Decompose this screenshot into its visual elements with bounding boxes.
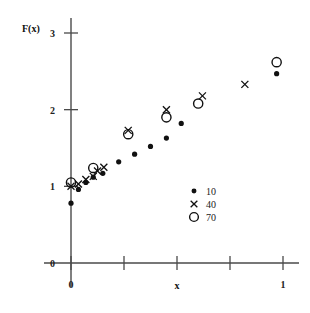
- marker-filled-circle: [148, 144, 153, 149]
- x-tick-label: 1: [281, 279, 286, 290]
- legend-label: 10: [206, 186, 216, 197]
- y-axis-label: F(x): [22, 23, 40, 35]
- marker-open-circle: [190, 213, 199, 222]
- data-series-layer: [66, 58, 281, 206]
- marker-filled-circle: [116, 159, 121, 164]
- marker-filled-circle: [76, 187, 81, 192]
- marker-filled-circle: [274, 71, 279, 76]
- scatter-chart: 0123 01 F(x) x 104070: [0, 0, 310, 313]
- marker-filled-circle: [179, 121, 184, 126]
- y-axis-tick-labels: 0123: [50, 28, 55, 269]
- axes-group: [44, 18, 299, 287]
- marker-open-circle: [162, 113, 171, 122]
- marker-filled-circle: [132, 152, 137, 157]
- marker-open-circle: [194, 99, 203, 108]
- marker-filled-circle: [68, 201, 73, 206]
- marker-open-circle: [89, 163, 98, 172]
- chart-legend: 104070: [190, 186, 216, 223]
- marker-open-circle: [272, 58, 281, 67]
- marker-filled-circle: [192, 189, 197, 194]
- series-40: [68, 81, 249, 190]
- x-axis-label: x: [175, 280, 180, 291]
- series-70: [66, 58, 281, 188]
- series-10: [68, 71, 279, 206]
- legend-label: 70: [206, 212, 216, 223]
- legend-label: 40: [206, 199, 216, 210]
- y-tick-label: 0: [50, 258, 55, 269]
- x-tick-label: 0: [69, 279, 74, 290]
- y-tick-label: 2: [50, 105, 55, 116]
- marker-filled-circle: [164, 135, 169, 140]
- y-tick-label: 1: [50, 181, 55, 192]
- marker-filled-circle: [100, 171, 105, 176]
- chart-canvas: 0123 01 F(x) x 104070: [0, 0, 310, 313]
- y-tick-label: 3: [50, 28, 55, 39]
